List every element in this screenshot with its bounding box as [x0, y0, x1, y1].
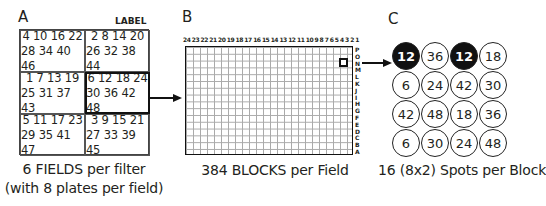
column-number: 11 — [297, 36, 304, 43]
column-number: 18 — [236, 36, 243, 43]
field-plates-row2: 25 31 37 43 — [21, 86, 84, 116]
spot: 42 — [392, 100, 420, 128]
field-cell: 5 11 17 2329 35 41 47 — [20, 114, 85, 156]
column-number: 7 — [325, 36, 329, 43]
column-number: 13 — [279, 36, 286, 43]
column-number-labels: 242322212019181716151413121110987654321 — [183, 36, 359, 43]
column-number: 23 — [192, 36, 199, 43]
spot: 18 — [450, 100, 478, 128]
row-letter: A — [355, 149, 361, 155]
column-number: 3 — [345, 36, 349, 43]
field-cell: 2 8 14 2026 32 38 44 — [85, 30, 150, 72]
field-plates-row1: 5 11 17 23 — [22, 113, 82, 128]
column-number: 12 — [288, 36, 295, 43]
column-number: 1 — [355, 36, 359, 43]
column-number: 10 — [306, 36, 313, 43]
spot: 6 — [392, 129, 420, 157]
panel-c-letter: C — [388, 10, 398, 28]
field-plates-row1: 6 12 18 24 — [87, 71, 147, 86]
spot: 24 — [421, 71, 449, 99]
spot: 42 — [450, 71, 478, 99]
row-letter-labels: PONMLKJIHGFEDCBA — [355, 47, 361, 155]
row-letter: E — [355, 122, 361, 128]
spot-filled: 12 — [392, 42, 420, 70]
column-number: 20 — [218, 36, 225, 43]
field-plates-row2: 29 35 41 47 — [21, 128, 84, 158]
field-plates-row1: 1 7 13 19 — [26, 71, 79, 86]
spot-filled: 12 — [450, 42, 478, 70]
caption-line1: 6 FIELDS per filter — [0, 160, 168, 179]
spot: 6 — [392, 71, 420, 99]
caption-line2: (with 8 plates per field) — [0, 179, 168, 198]
column-number: 9 — [314, 36, 318, 43]
arrow-head-icon — [383, 59, 392, 67]
column-number: 2 — [350, 36, 354, 43]
row-letter: O — [355, 54, 361, 60]
arrow-b-to-c — [362, 62, 384, 64]
column-number: 17 — [244, 36, 251, 43]
selected-block — [339, 58, 348, 67]
spot: 36 — [479, 100, 507, 128]
column-number: 6 — [330, 36, 334, 43]
panel-b-letter: B — [182, 8, 192, 26]
field-grid: 4 10 16 2228 34 40 46 2 8 14 2026 32 38 … — [19, 29, 149, 155]
column-number: 21 — [209, 36, 216, 43]
arrow-a-to-b — [150, 97, 174, 99]
arrow-head-icon — [173, 94, 182, 102]
column-number: 14 — [271, 36, 278, 43]
column-number: 16 — [253, 36, 260, 43]
field-plates-row1: 2 8 14 20 — [91, 29, 144, 44]
field-cell: 1 7 13 1925 31 37 43 — [20, 72, 85, 114]
column-number: 4 — [340, 36, 344, 43]
field-cell-selected: 6 12 18 2430 36 42 48 — [85, 72, 150, 114]
spot-grid: 123612186244230424818366302448 — [392, 42, 508, 158]
panel-a-caption: 6 FIELDS per filter (with 8 plates per f… — [0, 160, 168, 198]
column-number: 15 — [262, 36, 269, 43]
spot: 24 — [450, 129, 478, 157]
spot: 18 — [479, 42, 507, 70]
spot: 36 — [421, 42, 449, 70]
spot: 48 — [479, 129, 507, 157]
column-number: 24 — [183, 36, 190, 43]
spot: 30 — [421, 129, 449, 157]
field-plates-row1: 4 10 16 22 — [22, 29, 82, 44]
column-number: 22 — [201, 36, 208, 43]
field-plates-row2: 27 33 39 45 — [86, 128, 149, 158]
panel-a-letter: A — [18, 8, 28, 26]
panel-b-caption: 384 BLOCKS per Field — [190, 162, 360, 178]
panel-c-caption: 16 (8x2) Spots per Block — [378, 162, 544, 178]
column-number: 8 — [320, 36, 324, 43]
field-cell: 4 10 16 2228 34 40 46 — [20, 30, 85, 72]
block-grid — [185, 46, 353, 155]
field-cell: 3 9 15 2127 33 39 45 — [85, 114, 150, 156]
spot: 48 — [421, 100, 449, 128]
field-plates-row2: 28 34 40 46 — [21, 44, 84, 74]
label-tag: LABEL — [115, 16, 146, 26]
field-plates-row2: 30 36 42 48 — [86, 86, 149, 116]
spot: 30 — [479, 71, 507, 99]
field-plates-row1: 3 9 15 21 — [91, 113, 144, 128]
field-plates-row2: 26 32 38 44 — [86, 44, 149, 74]
column-number: 5 — [335, 36, 339, 43]
row-letter: J — [355, 88, 361, 94]
column-number: 19 — [227, 36, 234, 43]
